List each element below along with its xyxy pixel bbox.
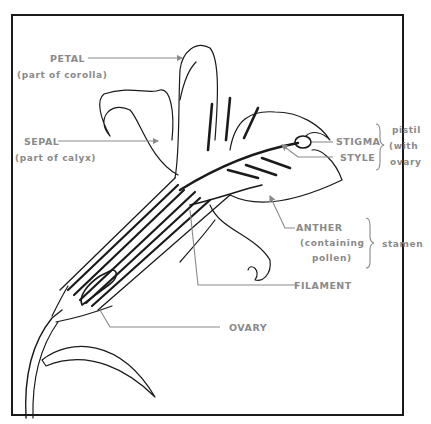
label-stigma: STIGMA — [336, 137, 380, 147]
label-stamen: stamen — [382, 240, 423, 249]
label-pistil-with: (with — [389, 142, 418, 151]
label-ovary: OVARY — [229, 323, 267, 333]
leaf — [42, 346, 155, 397]
label-anther-note2: pollen) — [312, 254, 352, 263]
stamen-brace — [366, 218, 374, 268]
label-sepal: SEPAL — [24, 137, 59, 147]
right-petal — [230, 112, 330, 150]
ovary-leader — [100, 310, 220, 327]
label-anther: ANTHER — [296, 223, 343, 233]
label-petal-note: (part of corolla) — [17, 71, 107, 80]
lower-petal — [210, 205, 270, 280]
label-sepal-note: (part of calyx) — [15, 154, 96, 163]
label-pistil: pistil — [392, 126, 421, 135]
diagram-canvas: PETAL (part of corolla) SEPAL (part of c… — [0, 0, 431, 424]
label-style: STYLE — [340, 153, 375, 163]
label-pistil-ovary: ovary — [390, 158, 421, 167]
style-shape — [180, 143, 298, 190]
left-petal — [100, 90, 178, 175]
pistil-brace — [376, 124, 384, 170]
label-anther-note1: (containing — [300, 239, 364, 248]
label-petal: PETAL — [50, 54, 85, 64]
stem — [26, 310, 62, 418]
label-filament: FILAMENT — [294, 281, 352, 291]
